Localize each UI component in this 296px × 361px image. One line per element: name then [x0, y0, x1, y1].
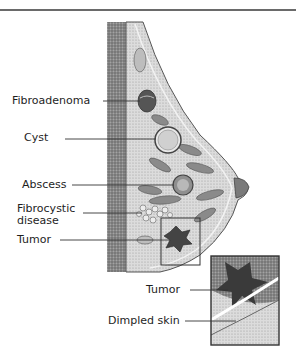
- label-fibroadenoma: Fibroadenoma: [12, 95, 90, 107]
- label-fibrocystic-line2: disease: [17, 215, 59, 227]
- nipple: [234, 178, 249, 198]
- label-cyst: Cyst: [24, 132, 48, 144]
- label-inset-tumor: Tumor: [146, 284, 180, 296]
- fibroadenoma-mass: [138, 90, 156, 112]
- chest-wall: [107, 22, 128, 272]
- label-abscess: Abscess: [22, 179, 67, 191]
- label-tumor: Tumor: [17, 234, 51, 246]
- label-dimpled-skin: Dimpled skin: [108, 315, 180, 327]
- inset-detail: [211, 256, 279, 345]
